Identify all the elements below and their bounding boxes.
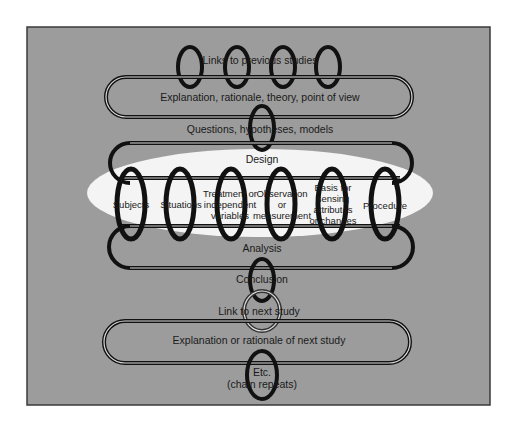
label-design: Design <box>246 153 279 165</box>
label-questions: Questions, hypotheses, models <box>187 123 334 135</box>
research-chain-diagram: Links to previous studies Explanation, r… <box>0 0 515 433</box>
label-analysis: Analysis <box>242 242 281 254</box>
label-subjects: Subjects <box>113 199 150 210</box>
label-links-previous: Links to previous studies <box>203 54 318 66</box>
svg-text:or: or <box>278 199 286 210</box>
svg-text:independent: independent <box>204 199 257 210</box>
svg-text:sensing: sensing <box>317 193 350 204</box>
svg-text:Observation: Observation <box>256 188 307 199</box>
label-link-next: Link to next study <box>218 305 300 317</box>
svg-text:Etc.: Etc. <box>253 366 271 378</box>
label-explanation: Explanation, rationale, theory, point of… <box>160 91 360 103</box>
svg-text:(chain repeats): (chain repeats) <box>227 378 297 390</box>
label-explanation-next: Explanation or rationale of next study <box>173 334 347 346</box>
label-situations: Situations <box>160 199 202 210</box>
svg-text:variables: variables <box>211 210 249 221</box>
svg-text:attributes: attributes <box>313 204 352 215</box>
svg-text:or changes: or changes <box>309 215 356 226</box>
svg-text:Treatment or: Treatment or <box>203 188 257 199</box>
label-conclusion: Conclusion <box>236 273 288 285</box>
svg-text:measurement: measurement <box>253 210 311 221</box>
label-basis: Basis for sensing attributes or changes <box>309 182 356 226</box>
label-procedure: Procedure <box>363 200 407 211</box>
label-treatment: Treatment or independent variables <box>203 188 257 221</box>
svg-text:Basis for: Basis for <box>315 182 352 193</box>
